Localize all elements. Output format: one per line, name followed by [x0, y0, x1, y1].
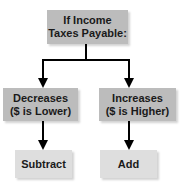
- subtract-label: Subtract: [21, 158, 66, 171]
- increases-line-1: Increases: [106, 92, 170, 105]
- decreases-line-2: ($ is Lower): [10, 105, 71, 118]
- subtract-box: Subtract: [15, 150, 72, 178]
- arrow-down-icon: [124, 140, 134, 150]
- root-line-1: If Income: [48, 14, 127, 27]
- decreases-line-1: Decreases: [10, 92, 71, 105]
- root-line-2: Taxes Payable:: [48, 27, 127, 40]
- increases-line-2: ($ is Higher): [106, 105, 170, 118]
- increases-box: Increases ($ is Higher): [99, 88, 176, 121]
- arrow-down-icon: [38, 78, 48, 88]
- add-label: Add: [118, 158, 139, 171]
- decreases-box: Decreases ($ is Lower): [3, 88, 78, 121]
- arrow-down-icon: [38, 140, 48, 150]
- add-box: Add: [100, 150, 157, 178]
- arrow-down-icon: [124, 78, 134, 88]
- root-decision-box: If Income Taxes Payable:: [47, 10, 128, 44]
